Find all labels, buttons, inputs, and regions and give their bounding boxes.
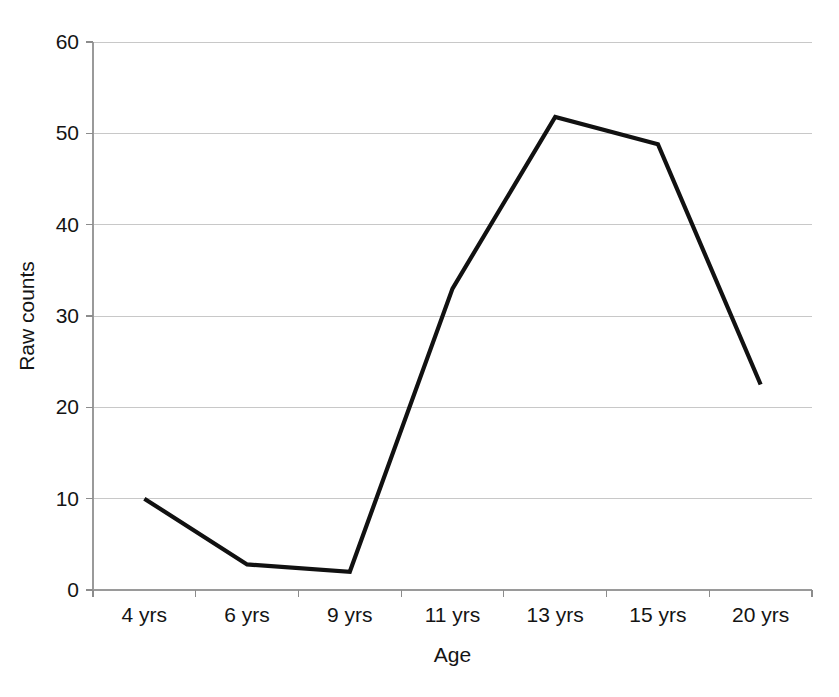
x-axis-tick-label: 4 yrs <box>122 603 168 626</box>
x-axis-tick-label: 11 yrs <box>425 603 481 626</box>
x-tick-marks-group <box>93 590 812 597</box>
y-tick-marks-group <box>86 42 93 590</box>
gridlines-group <box>93 42 812 590</box>
y-axis-tick-label: 10 <box>56 487 79 510</box>
x-axis-tick-label: 13 yrs <box>527 603 584 626</box>
y-axis-title: Raw counts <box>15 261 38 371</box>
x-axis-tick-label: 15 yrs <box>629 603 686 626</box>
y-axis-tick-label: 30 <box>56 304 79 327</box>
data-series-line <box>144 117 760 572</box>
x-axis-tick-label: 20 yrs <box>732 603 789 626</box>
y-axis-tick-label: 50 <box>56 121 79 144</box>
x-axis-tick-labels: 4 yrs6 yrs9 yrs11 yrs13 yrs15 yrs20 yrs <box>122 603 790 626</box>
y-axis-tick-label: 0 <box>67 578 79 601</box>
line-chart-svg: 0102030405060 4 yrs6 yrs9 yrs11 yrs13 yr… <box>0 0 839 697</box>
y-axis-tick-labels: 0102030405060 <box>56 30 79 601</box>
y-axis-tick-label: 40 <box>56 213 79 236</box>
x-axis-tick-label: 9 yrs <box>327 603 373 626</box>
y-axis-tick-label: 60 <box>56 30 79 53</box>
x-axis-tick-label: 6 yrs <box>224 603 270 626</box>
x-axis-title: Age <box>434 643 471 666</box>
chart-container: 0102030405060 4 yrs6 yrs9 yrs11 yrs13 yr… <box>0 0 839 697</box>
y-axis-tick-label: 20 <box>56 395 79 418</box>
